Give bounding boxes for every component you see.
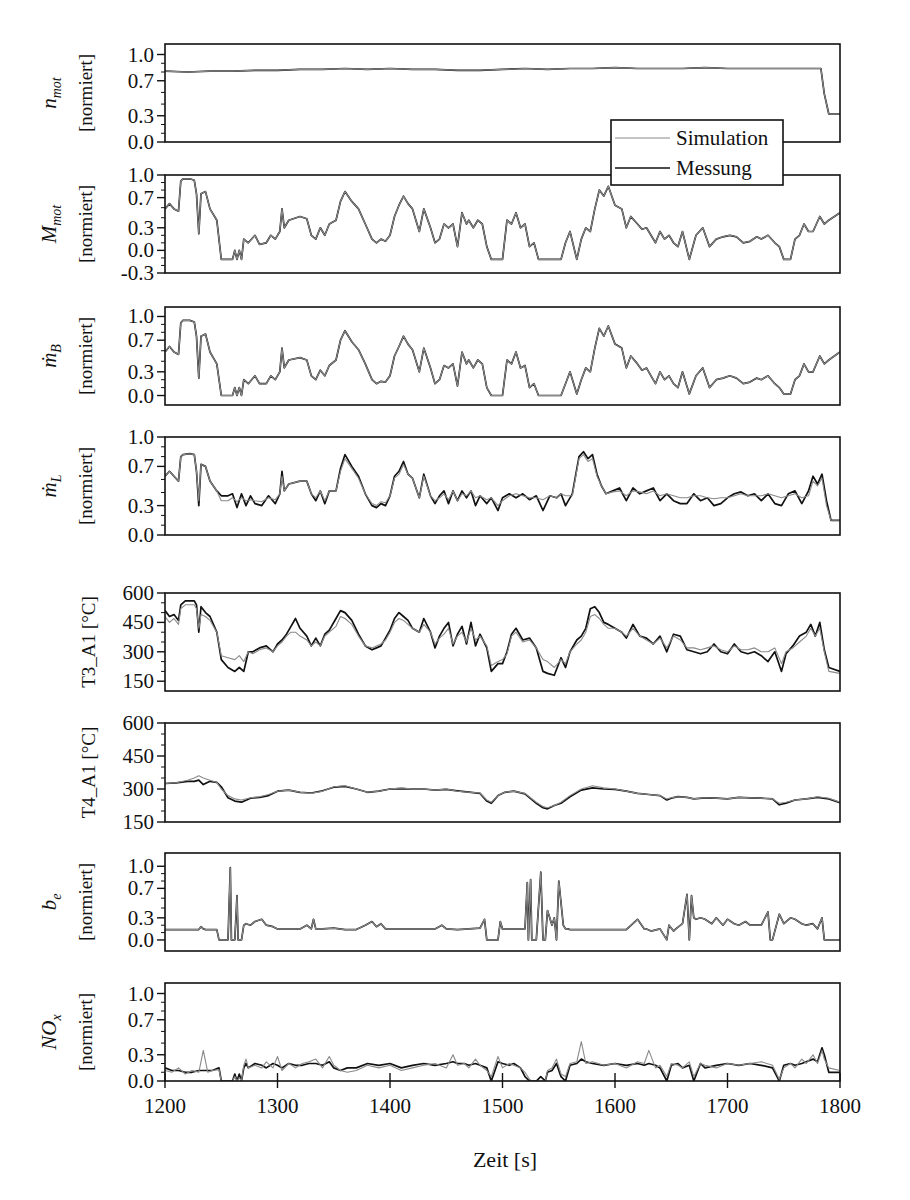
y-axis-label: T3_A1 [°C] (78, 596, 99, 688)
x-tick-label: 1400 (369, 1094, 411, 1118)
y-tick-label: 0.0 (128, 1069, 154, 1093)
y-axis-unit: [normiert] (75, 993, 96, 1071)
panel-frame (165, 723, 840, 822)
y-tick-label: 0.7 (128, 328, 154, 352)
y-tick-label: 0.3 (128, 216, 154, 240)
y-tick-label: 0.7 (128, 876, 154, 900)
y-axis-label: ṁL (37, 474, 64, 497)
y-tick-label: 0.3 (128, 104, 154, 128)
y-tick-label: 300 (123, 640, 155, 664)
y-tick-label: 0.3 (128, 494, 154, 518)
y-axis-label: NOx (37, 1014, 64, 1051)
x-tick-label: 1200 (144, 1094, 186, 1118)
y-tick-label: 600 (123, 711, 155, 735)
trace-messung (165, 179, 840, 260)
x-tick-label: 1500 (482, 1094, 524, 1118)
y-tick-label: 0.0 (128, 238, 154, 262)
y-axis-label: be (37, 894, 64, 911)
panel-m-l: 0.00.30.71.0ṁL[normiert] (37, 425, 840, 547)
trace-simulation (165, 776, 840, 808)
panel-frame (165, 593, 840, 691)
y-tick-label: 0.7 (128, 186, 154, 210)
y-tick-label: 0.0 (128, 130, 154, 154)
y-tick-label: 0.3 (128, 1043, 154, 1067)
trace-messung (165, 452, 840, 521)
legend: Simulation Messung (611, 120, 783, 185)
y-tick-label: 0.3 (128, 360, 154, 384)
x-axis-label: Zeit [s] (473, 1147, 537, 1172)
y-tick-label: 0.7 (128, 1008, 154, 1032)
panel-m-b: 0.00.30.71.0ṁB[normiert] (37, 304, 840, 407)
panel-t3-a1: 150300450600T3_A1 [°C] (78, 581, 840, 693)
panel-frame (165, 437, 840, 535)
plot-panels: 0.00.30.71.0nmot[normiert]-0.30.00.30.71… (37, 43, 840, 1094)
y-tick-label: 1.0 (128, 163, 154, 187)
y-axis-label: nmot (37, 76, 64, 109)
y-tick-label: 300 (123, 777, 155, 801)
y-tick-label: 450 (123, 610, 155, 634)
panel-t4-a1: 150300450600T4_A1 [°C] (78, 711, 840, 834)
x-tick-label: 1800 (819, 1094, 861, 1118)
legend-label-messung: Messung (676, 156, 752, 180)
x-tick-label: 1300 (257, 1094, 299, 1118)
y-tick-label: 600 (123, 581, 155, 605)
y-tick-label: 150 (123, 669, 155, 693)
y-axis-unit: [normiert] (75, 185, 96, 263)
x-tick-label: 1700 (707, 1094, 749, 1118)
y-tick-label: 0.0 (128, 523, 154, 547)
x-tick-label: 1600 (594, 1094, 636, 1118)
trace-simulation (165, 179, 840, 260)
figure: 0.00.30.71.0nmot[normiert]-0.30.00.30.71… (0, 0, 910, 1200)
stacked-line-chart: 0.00.30.71.0nmot[normiert]-0.30.00.30.71… (0, 0, 910, 1200)
y-tick-label: 150 (123, 810, 155, 834)
y-tick-label: 0.3 (128, 906, 154, 930)
y-axis-unit: [normiert] (75, 54, 96, 132)
trace-messung (165, 601, 840, 676)
y-tick-label: 1.0 (128, 982, 154, 1006)
panel-frame (165, 983, 840, 1081)
trace-simulation (165, 454, 840, 521)
trace-simulation (165, 868, 840, 940)
y-tick-label: 0.0 (128, 928, 154, 952)
y-axis-label: T4_A1 [°C] (78, 727, 99, 819)
y-tick-label: 0.7 (128, 69, 154, 93)
panel-no-x: 0.00.30.71.0NOx[normiert] (37, 982, 840, 1094)
y-axis-label: ṁB (37, 344, 64, 368)
y-axis-unit: [normiert] (75, 863, 96, 941)
panel-frame (165, 853, 840, 951)
trace-messung (165, 68, 840, 114)
x-axis: 1200130014001500160017001800 (144, 1073, 861, 1118)
legend-label-simulation: Simulation (676, 126, 769, 150)
y-axis-label: Mmot (37, 204, 64, 245)
y-tick-label: 1.0 (128, 854, 154, 878)
y-tick-label: 0.0 (128, 384, 154, 408)
trace-simulation (165, 68, 840, 114)
y-tick-label: 1.0 (128, 304, 154, 328)
y-tick-label: 1.0 (128, 425, 154, 449)
trace-simulation (165, 320, 840, 395)
y-axis-unit: [normiert] (75, 317, 96, 395)
y-tick-label: 1.0 (128, 43, 154, 67)
panel-b-e: 0.00.30.71.0be[normiert] (37, 853, 840, 952)
y-tick-label: 0.7 (128, 454, 154, 478)
y-tick-label: -0.3 (121, 261, 154, 285)
y-axis-unit: [normiert] (75, 447, 96, 525)
y-tick-label: 450 (123, 744, 155, 768)
